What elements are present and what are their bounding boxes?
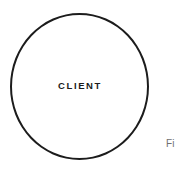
diagram-canvas: CLIENT Fi [0,0,177,174]
client-node-label: CLIENT [0,80,160,92]
figure-caption-text: Fi [166,138,175,150]
